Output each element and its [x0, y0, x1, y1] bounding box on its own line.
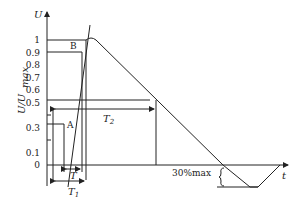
- y-tick-label: 0: [34, 160, 40, 170]
- y-tick-label: 0.3: [26, 123, 41, 133]
- t1-label: T1: [68, 186, 79, 199]
- y-tick-label: 0.6: [26, 85, 41, 95]
- undershoot-label: 30%max: [172, 168, 211, 178]
- point-a-label: A: [66, 120, 74, 130]
- y-axis-label: U: [34, 9, 43, 20]
- t2-label: T2: [103, 113, 115, 126]
- x-axis-label: t: [282, 170, 287, 181]
- y-tick-label: 1: [34, 35, 40, 45]
- y-tick-label: 0.1: [26, 148, 40, 158]
- undershoot-brace: [219, 168, 224, 186]
- t-label: T: [70, 170, 78, 181]
- impulse-waveform-diagram: U t U/U max 10.90.80.70.60.50.30.10 T2 T…: [0, 0, 299, 207]
- y-tick-label: 0.9: [26, 48, 41, 58]
- y-tick-label: 0.5: [26, 98, 41, 108]
- y-tick-label: 0.7: [26, 73, 41, 83]
- point-b-label: B: [70, 41, 77, 51]
- y-tick-label: 0.8: [26, 60, 41, 70]
